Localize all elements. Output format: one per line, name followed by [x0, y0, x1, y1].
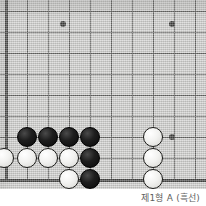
white-stone[interactable]: [0, 148, 14, 168]
board-edge-bottom: [0, 179, 206, 182]
white-stone[interactable]: [143, 127, 163, 147]
grid-line-horizontal-4: [0, 95, 206, 96]
grid-line-vertical-9: [195, 0, 196, 182]
grid-line-horizontal-1: [0, 32, 206, 33]
grid-line-vertical-6: [132, 0, 133, 182]
black-stone[interactable]: [80, 169, 100, 189]
grid-line-vertical-5: [111, 0, 112, 182]
white-stone[interactable]: [59, 169, 79, 189]
grid-line-horizontal-2: [0, 53, 206, 54]
hoshi-upper-right-icon: [169, 21, 175, 27]
grid-line-horizontal-3: [0, 74, 206, 75]
grid-line-horizontal-0: [0, 11, 206, 12]
white-stone[interactable]: [38, 148, 58, 168]
white-stone[interactable]: [59, 148, 79, 168]
black-stone[interactable]: [80, 148, 100, 168]
grid-line-horizontal-5: [0, 116, 206, 117]
black-stone[interactable]: [38, 127, 58, 147]
go-diagram-figure: 제1형 A (흑선): [0, 0, 206, 206]
grid-line-vertical-8: [174, 0, 175, 182]
figure-caption: 제1형 A (흑선): [0, 189, 206, 206]
hoshi-lower-right-icon: [169, 134, 175, 140]
black-stone[interactable]: [59, 127, 79, 147]
go-board[interactable]: [0, 0, 206, 189]
white-stone[interactable]: [143, 169, 163, 189]
white-stone[interactable]: [17, 148, 37, 168]
hoshi-upper-left-icon: [60, 21, 66, 27]
white-stone[interactable]: [143, 148, 163, 168]
black-stone[interactable]: [80, 127, 100, 147]
black-stone[interactable]: [17, 127, 37, 147]
